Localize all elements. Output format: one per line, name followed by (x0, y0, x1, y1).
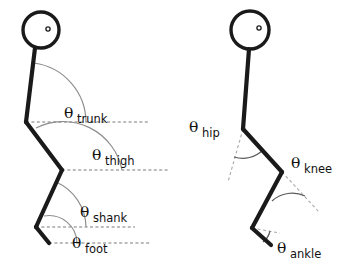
head-circle-right (231, 11, 269, 49)
trunk-segment-right (243, 49, 249, 129)
theta-ankle-subscript: ankle (290, 247, 321, 261)
theta-hip-subscript: hip (202, 126, 220, 140)
right-panel-group: θ hip θ knee θ ankle (189, 11, 332, 261)
theta-hip-label: θ hip (189, 118, 220, 140)
theta-foot-label: θ foot (72, 234, 108, 256)
theta-shank-symbol: θ (80, 203, 89, 221)
trunk-segment-left (26, 48, 35, 122)
shank-segment-left (36, 170, 62, 227)
theta-foot-symbol: θ (72, 234, 81, 252)
hip-trunk-projection-line (228, 129, 243, 182)
theta-trunk-symbol: θ (64, 104, 73, 122)
theta-shank-subscript: shank (93, 211, 128, 225)
eye-dot-left (46, 27, 50, 31)
foot-segment-left (36, 227, 49, 243)
theta-trunk-subscript: trunk (77, 112, 108, 126)
stick-figure-diagram: θ trunk θ thigh θ shank θ foot (0, 0, 337, 272)
thigh-segment-left (26, 122, 62, 170)
theta-knee-arc (272, 193, 305, 201)
theta-knee-label: θ knee (291, 154, 332, 176)
theta-shank-label: θ shank (80, 203, 128, 225)
head-circle-left (23, 12, 59, 48)
theta-ankle-label: θ ankle (277, 239, 321, 261)
theta-foot-subscript: foot (85, 242, 108, 256)
theta-trunk-label: θ trunk (64, 104, 108, 126)
theta-ankle-symbol: θ (277, 239, 286, 257)
diagram-canvas: θ trunk θ thigh θ shank θ foot (0, 0, 337, 272)
shank-segment-right (252, 172, 282, 228)
knee-thigh-projection-line (282, 172, 319, 212)
left-panel-group: θ trunk θ thigh θ shank θ foot (23, 12, 168, 256)
theta-knee-subscript: knee (304, 162, 332, 176)
eye-dot-right (257, 26, 261, 30)
theta-thigh-subscript: thigh (105, 154, 135, 168)
theta-thigh-symbol: θ (92, 146, 101, 164)
theta-hip-symbol: θ (189, 118, 198, 136)
theta-hip-arc (234, 150, 263, 158)
thigh-segment-right (243, 129, 282, 172)
theta-knee-symbol: θ (291, 154, 300, 172)
